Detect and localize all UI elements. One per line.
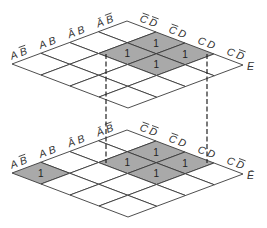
label-letter: B (18, 44, 29, 58)
label-letter: Ā (65, 135, 77, 149)
layer-label: E (247, 60, 255, 72)
cell-value: 1 (153, 147, 159, 158)
cell-value: 1 (182, 49, 188, 60)
label-letter: D (177, 26, 189, 40)
label-letter: Ā (94, 16, 106, 30)
label-letter: D (206, 37, 218, 51)
label-letter: A (36, 146, 48, 160)
cell-value: 1 (154, 168, 160, 179)
layer-label: Ē (247, 169, 255, 181)
label-letter: B (75, 23, 86, 37)
cell-value: 1 (125, 48, 131, 59)
label-letter: Ā (94, 125, 106, 139)
cell-value: 1 (153, 38, 159, 49)
label-letter: Ā (65, 26, 77, 40)
label-letter: B (47, 34, 58, 48)
label-letter: D (177, 135, 189, 149)
karnaugh-map-diagram: 1111ABABĀBĀBCDCDCDCDE 11111ABABĀBĀBCDCDC… (0, 0, 267, 228)
label-letter: B (47, 143, 58, 157)
label-letter: B (104, 12, 115, 26)
label-letter: A (7, 48, 19, 62)
label-letter: B (18, 153, 29, 167)
cell-value: 1 (125, 157, 131, 168)
label-letter: A (36, 37, 48, 51)
kmap-e-bar: 11111ABABĀBĀBCDCDCDCDĒ (7, 121, 255, 217)
cell-value: 1 (154, 59, 160, 70)
label-letter: B (75, 132, 86, 146)
cell-value: 1 (182, 158, 188, 169)
kmap-e: 1111ABABĀBĀBCDCDCDCDE (7, 12, 255, 108)
label-letter: A (7, 157, 19, 171)
cell-value: 1 (38, 168, 44, 179)
